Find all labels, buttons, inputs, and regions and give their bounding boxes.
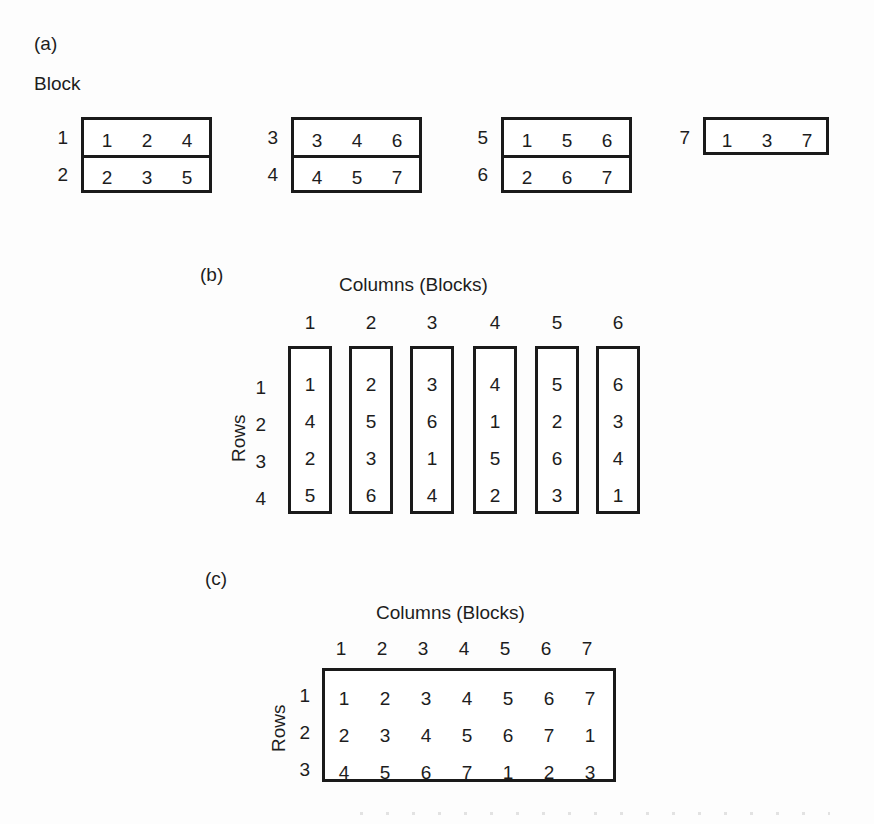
panel-c-cell: 6 bbox=[533, 689, 565, 708]
panel-c-col-label: 1 bbox=[325, 639, 357, 658]
panel-a-cell: 6 bbox=[379, 131, 415, 150]
panel-a-tag: (a) bbox=[34, 33, 57, 55]
panel-c-cell: 5 bbox=[369, 763, 401, 782]
panel-b-cell: 2 bbox=[291, 449, 329, 468]
panel-a-cell: 1 bbox=[709, 131, 745, 150]
panel-b-cell: 5 bbox=[291, 486, 329, 505]
panel-b-column-box-2: 2 5 3 6 bbox=[349, 346, 393, 514]
panel-b-cell: 1 bbox=[291, 375, 329, 394]
panel-c-cell: 1 bbox=[328, 689, 360, 708]
panel-c-cell: 7 bbox=[574, 689, 606, 708]
panel-c-cell: 3 bbox=[369, 726, 401, 745]
panel-a-block-box-2-divider bbox=[294, 155, 419, 158]
panel-a-block-box-1-divider bbox=[84, 155, 209, 158]
panel-a-cell: 5 bbox=[339, 168, 375, 187]
panel-b-column-box-1: 1 4 2 5 bbox=[288, 346, 332, 514]
panel-a-cell: 5 bbox=[169, 168, 205, 187]
panel-b-column-box-5: 5 2 6 3 bbox=[535, 346, 579, 514]
panel-b-column-box-4: 4 1 5 2 bbox=[473, 346, 517, 514]
panel-a-block3-row-label-1: 5 bbox=[464, 128, 488, 147]
panel-b-cell: 2 bbox=[538, 412, 576, 431]
panel-a-block-box-2: 3 4 6 4 5 7 bbox=[291, 117, 422, 193]
panel-c-rows-title: Rows bbox=[268, 704, 290, 752]
panel-a-cell: 1 bbox=[509, 131, 545, 150]
panel-b-cell: 3 bbox=[599, 412, 637, 431]
panel-b-row-label: 4 bbox=[244, 489, 266, 508]
panel-c-row-label: 3 bbox=[288, 760, 310, 779]
panel-a-block-box-4: 1 3 7 bbox=[703, 117, 829, 155]
panel-c-row-label: 2 bbox=[288, 723, 310, 742]
panel-c-col-label: 6 bbox=[530, 639, 562, 658]
panel-a-block-box-3-divider bbox=[504, 155, 629, 158]
panel-c-col-label: 7 bbox=[571, 639, 603, 658]
panel-b-col-label: 2 bbox=[349, 313, 393, 332]
panel-a-cell: 3 bbox=[129, 168, 165, 187]
panel-a-cell: 7 bbox=[379, 168, 415, 187]
panel-c-cell: 1 bbox=[492, 763, 524, 782]
panel-a-cell: 5 bbox=[549, 131, 585, 150]
figure-canvas: (a) Block 1 2 1 2 4 2 3 5 3 4 3 4 6 4 5 … bbox=[0, 0, 874, 824]
panel-b-cell: 6 bbox=[538, 449, 576, 468]
panel-c-cell: 6 bbox=[492, 726, 524, 745]
panel-a-cell: 3 bbox=[299, 131, 335, 150]
panel-c-cell: 4 bbox=[410, 726, 442, 745]
panel-a-block3-row-label-2: 6 bbox=[464, 165, 488, 184]
panel-c-rows-title-text: Rows bbox=[268, 704, 289, 752]
panel-a-cell: 6 bbox=[549, 168, 585, 187]
panel-c-cell: 7 bbox=[533, 726, 565, 745]
panel-a-block1-row-label-1: 1 bbox=[44, 128, 68, 147]
panel-c-columns-title: Columns (Blocks) bbox=[376, 602, 525, 624]
panel-a-cell: 4 bbox=[169, 131, 205, 150]
panel-b-cell: 6 bbox=[599, 375, 637, 394]
panel-b-column-box-3: 3 6 1 4 bbox=[410, 346, 454, 514]
panel-a-cell: 1 bbox=[89, 131, 125, 150]
panel-b-cell: 3 bbox=[538, 486, 576, 505]
panel-b-cell: 1 bbox=[599, 486, 637, 505]
panel-a-cell: 2 bbox=[89, 168, 125, 187]
panel-c-cell: 5 bbox=[451, 726, 483, 745]
panel-b-cell: 3 bbox=[413, 375, 451, 394]
panel-c-tag: (c) bbox=[205, 568, 227, 590]
panel-c-cell: 4 bbox=[451, 689, 483, 708]
panel-b-cell: 4 bbox=[413, 486, 451, 505]
panel-b-cell: 3 bbox=[352, 449, 390, 468]
panel-b-cell: 6 bbox=[352, 486, 390, 505]
panel-b-cell: 1 bbox=[413, 449, 451, 468]
scan-artifact bbox=[360, 812, 830, 815]
panel-c-cell: 3 bbox=[410, 689, 442, 708]
panel-b-col-label: 5 bbox=[535, 313, 579, 332]
panel-a-cell: 7 bbox=[789, 131, 825, 150]
panel-b-columns-title: Columns (Blocks) bbox=[339, 274, 488, 296]
panel-b-cell: 4 bbox=[476, 375, 514, 394]
panel-b-tag: (b) bbox=[200, 264, 223, 286]
panel-a-block1-row-label-2: 2 bbox=[44, 165, 68, 184]
panel-b-col-label: 4 bbox=[473, 313, 517, 332]
panel-a-block4-row-label-1: 7 bbox=[666, 128, 690, 147]
panel-c-cell: 3 bbox=[574, 763, 606, 782]
panel-b-row-label: 3 bbox=[244, 452, 266, 471]
panel-c-cell: 5 bbox=[492, 689, 524, 708]
panel-a-cell: 2 bbox=[129, 131, 165, 150]
panel-c-cell: 2 bbox=[533, 763, 565, 782]
panel-a-block-label: Block bbox=[34, 74, 80, 93]
panel-a-block-box-1: 1 2 4 2 3 5 bbox=[81, 117, 212, 193]
panel-c-row-label: 1 bbox=[288, 686, 310, 705]
panel-b-row-label: 2 bbox=[244, 415, 266, 434]
panel-a-cell: 3 bbox=[749, 131, 785, 150]
panel-c-cell: 6 bbox=[410, 763, 442, 782]
panel-b-cell: 2 bbox=[476, 486, 514, 505]
panel-b-cell: 6 bbox=[413, 412, 451, 431]
panel-a-block2-row-label-2: 4 bbox=[254, 165, 278, 184]
panel-a-block-box-3: 1 5 6 2 6 7 bbox=[501, 117, 632, 193]
panel-b-row-label: 1 bbox=[244, 378, 266, 397]
panel-a-cell: 4 bbox=[339, 131, 375, 150]
panel-b-cell: 5 bbox=[538, 375, 576, 394]
panel-b-cell: 5 bbox=[476, 449, 514, 468]
panel-c-col-label: 2 bbox=[366, 639, 398, 658]
panel-c-cell: 4 bbox=[328, 763, 360, 782]
panel-b-col-label: 1 bbox=[288, 313, 332, 332]
panel-c-cell: 1 bbox=[574, 726, 606, 745]
panel-b-col-label: 3 bbox=[410, 313, 454, 332]
panel-b-cell: 4 bbox=[599, 449, 637, 468]
panel-a-cell: 6 bbox=[589, 131, 625, 150]
